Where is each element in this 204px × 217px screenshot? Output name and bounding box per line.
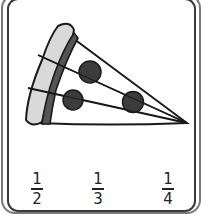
denominator: 3 <box>88 192 108 207</box>
denominator: 2 <box>27 192 47 207</box>
fraction-choice-quarter[interactable]: 1 4 <box>158 172 178 207</box>
numerator: 1 <box>27 172 47 187</box>
numerator: 1 <box>88 172 108 187</box>
numerator: 1 <box>158 172 178 187</box>
fraction-choice-third[interactable]: 1 3 <box>88 172 108 207</box>
denominator: 4 <box>158 192 178 207</box>
fraction-choice-half[interactable]: 1 2 <box>27 172 47 207</box>
